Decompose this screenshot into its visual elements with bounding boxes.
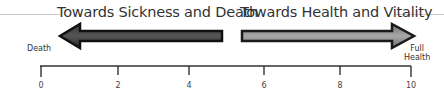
tick-10: 10	[406, 81, 416, 90]
full-health-line2: Health	[404, 53, 430, 62]
tick-8: 8	[337, 81, 342, 90]
right-arrow-icon	[242, 24, 414, 48]
tick-6: 6	[261, 81, 266, 90]
full-health-label: Full Health	[404, 44, 430, 62]
death-label: Death	[27, 44, 51, 53]
full-health-line1: Full	[404, 44, 430, 53]
tick-4: 4	[186, 81, 191, 90]
tick-0: 0	[38, 81, 43, 90]
left-arrow-icon	[60, 24, 222, 48]
arrows-and-axis	[0, 0, 444, 96]
tick-2: 2	[115, 81, 120, 90]
